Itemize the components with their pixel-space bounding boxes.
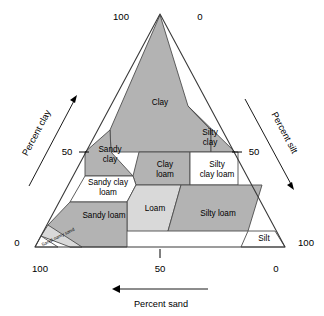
sand-tick-50: 50	[155, 263, 166, 274]
soil-class-label: Silty loam	[200, 209, 236, 218]
clay-tick-100: 100	[113, 11, 129, 22]
sand-axis: 100 50 0 Percent sand	[32, 249, 279, 309]
silt-tick-50: 50	[249, 146, 260, 157]
clay-axis-arrow-head	[70, 95, 77, 103]
soil-class-label: Clay	[152, 98, 169, 107]
sand-axis-arrow-head	[112, 285, 120, 293]
soil-texture-triangle-figure: ClaySiltyclaySandyclayClayloamSiltyclay …	[0, 0, 324, 316]
clay-tick-50: 50	[62, 146, 73, 157]
silt-tick-100: 100	[298, 237, 314, 248]
ternary-diagram-svg: ClaySiltyclaySandyclayClayloamSiltyclay …	[0, 0, 324, 316]
soil-class-label: Sandy loam	[82, 211, 125, 220]
silt-tick-0: 0	[197, 11, 202, 22]
clay-tick-0: 0	[14, 237, 19, 248]
soil-class-label: Loam	[145, 204, 166, 213]
soil-class-region	[168, 185, 262, 231]
sand-axis-title: Percent sand	[134, 299, 188, 309]
soil-class-label: Siltyclay	[202, 128, 218, 146]
silt-axis-arrow-head	[287, 182, 294, 190]
soil-class-label: Silt	[258, 234, 270, 243]
sand-tick-100: 100	[32, 263, 48, 274]
soil-class-region	[110, 15, 211, 152]
soil-class-label: Clayloam	[156, 160, 174, 178]
silt-axis-title: Percent silt	[269, 110, 299, 155]
sand-tick-0: 0	[273, 263, 278, 274]
